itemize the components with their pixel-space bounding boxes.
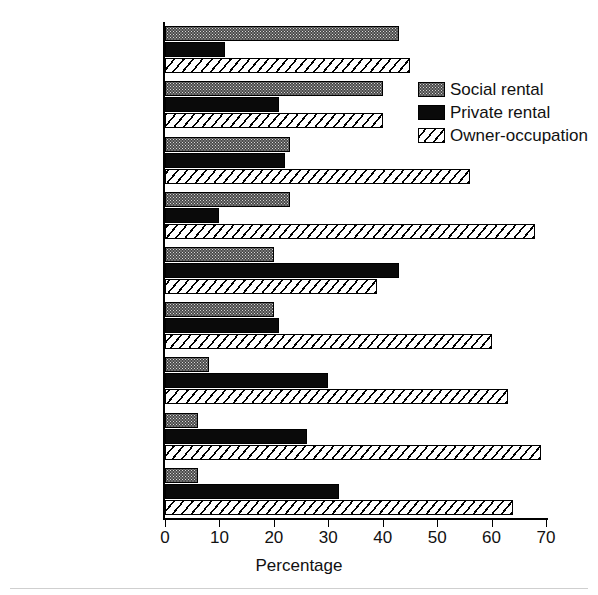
x-tick-label: 30	[308, 528, 348, 548]
legend-swatch-owner	[418, 128, 445, 143]
bar-chart-figure: NetherlandsSwedenFranceUnited KingdomGer…	[0, 0, 598, 595]
bar-social	[165, 247, 274, 262]
bar-owner	[165, 500, 513, 515]
bar-social	[165, 137, 290, 152]
bar-private	[165, 42, 225, 57]
x-tick	[383, 520, 384, 527]
bar-owner	[165, 58, 410, 73]
x-axis-title: Percentage	[0, 556, 598, 576]
legend-swatch-social	[418, 82, 445, 97]
bar-private	[165, 97, 279, 112]
x-tick-label: 50	[417, 528, 457, 548]
bar-group: Canada	[165, 353, 546, 408]
x-tick	[328, 520, 329, 527]
bar-group: Denmark	[165, 298, 546, 353]
x-tick	[437, 520, 438, 527]
bar-private	[165, 484, 339, 499]
legend-label: Owner-occupation	[450, 126, 588, 146]
x-tick	[165, 520, 166, 527]
bar-group: United States	[165, 464, 546, 519]
bar-social	[165, 357, 209, 372]
legend-label: Private rental	[450, 103, 550, 123]
page-divider	[10, 588, 588, 589]
legend-swatch-private	[418, 105, 445, 120]
bar-group: Germany	[165, 243, 546, 298]
bar-group: Australia	[165, 409, 546, 464]
x-tick-label: 0	[145, 528, 185, 548]
bar-owner	[165, 169, 470, 184]
x-tick-label: 40	[363, 528, 403, 548]
x-tick-label: 20	[254, 528, 294, 548]
x-tick-label: 70	[526, 528, 566, 548]
x-tick	[274, 520, 275, 527]
bar-private	[165, 318, 279, 333]
bar-owner	[165, 389, 508, 404]
bar-private	[165, 153, 285, 168]
bar-private	[165, 208, 219, 223]
bar-social	[165, 413, 198, 428]
x-tick-label: 60	[472, 528, 512, 548]
bar-owner	[165, 279, 377, 294]
legend-label: Social rental	[450, 80, 544, 100]
bar-owner	[165, 113, 383, 128]
bar-owner	[165, 334, 492, 349]
bar-owner	[165, 445, 541, 460]
x-tick	[492, 520, 493, 527]
bar-social	[165, 302, 274, 317]
legend-item: Owner-occupation	[418, 124, 588, 147]
x-tick-label: 10	[199, 528, 239, 548]
bar-private	[165, 373, 328, 388]
bar-social	[165, 192, 290, 207]
bar-private	[165, 429, 307, 444]
x-tick	[219, 520, 220, 527]
legend: Social rentalPrivate rentalOwner-occupat…	[418, 78, 588, 147]
bar-group: United Kingdom	[165, 188, 546, 243]
x-tick	[546, 520, 547, 527]
bar-social	[165, 81, 383, 96]
bar-group: Netherlands	[165, 22, 546, 77]
bar-social	[165, 26, 399, 41]
bar-owner	[165, 224, 535, 239]
legend-item: Private rental	[418, 101, 588, 124]
legend-item: Social rental	[418, 78, 588, 101]
bar-social	[165, 468, 198, 483]
bar-private	[165, 263, 399, 278]
